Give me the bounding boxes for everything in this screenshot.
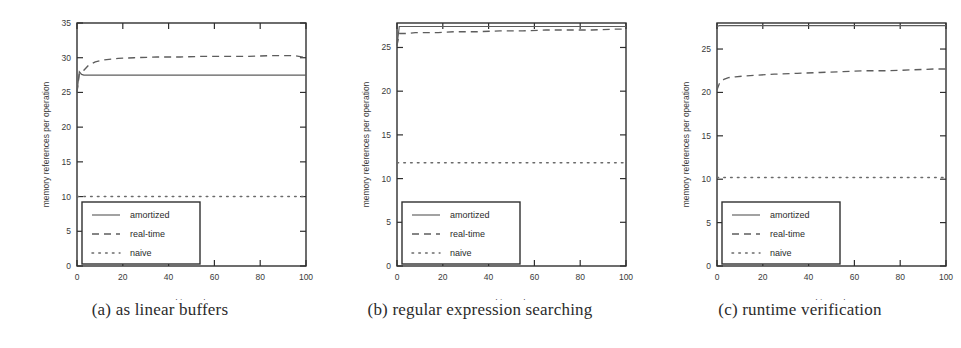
plot-area-a: 02040608010005101520253035memory referen… — [0, 0, 320, 300]
x-tick-label: 0 — [75, 272, 80, 282]
x-tick-label: 100 — [299, 272, 313, 282]
chart-b-content: 0204060801000510152025memory references … — [361, 23, 633, 300]
legend-item-amortized: amortized — [130, 210, 170, 220]
legend-item-real-time: real-time — [130, 229, 165, 239]
x-tick-label: 60 — [850, 272, 860, 282]
x-tick-label: 20 — [438, 272, 448, 282]
y-tick-label: 20 — [382, 86, 392, 96]
y-tick-label: 5 — [706, 218, 711, 228]
chart-c-content: 0204060801000510152025memory references … — [681, 23, 953, 300]
plot-area-c: 0204060801000510152025memory references … — [640, 0, 960, 300]
caption-a: (a) as linear buffers — [0, 300, 320, 320]
y-tick-label: 5 — [66, 226, 71, 236]
y-tick-label: 25 — [382, 42, 392, 52]
figure-row: 02040608010005101520253035memory referen… — [0, 0, 961, 348]
x-tick-label: 40 — [164, 272, 174, 282]
y-tick-label: 0 — [386, 261, 391, 271]
legend-item-naive: naive — [770, 248, 792, 258]
legend-item-real-time: real-time — [450, 229, 485, 239]
y-axis-title: memory references per operation — [361, 81, 371, 207]
x-tick-label: 60 — [210, 272, 220, 282]
x-tick-label: 20 — [758, 272, 768, 282]
y-tick-label: 20 — [62, 122, 72, 132]
x-tick-label: 0 — [395, 272, 400, 282]
y-tick-label: 20 — [702, 87, 712, 97]
x-tick-label: 100 — [939, 272, 953, 282]
y-tick-label: 25 — [62, 87, 72, 97]
x-tick-label: 80 — [255, 272, 265, 282]
chart-panel-b: 0204060801000510152025memory references … — [320, 0, 640, 348]
plot-area-b: 0204060801000510152025memory references … — [320, 0, 640, 300]
caption-b: (b) regular expression searching — [320, 300, 640, 320]
series-line-amortized — [717, 26, 946, 27]
y-axis-title: memory references per operation — [681, 81, 691, 207]
chart-panel-a: 02040608010005101520253035memory referen… — [0, 0, 320, 348]
legend-item-real-time: real-time — [770, 229, 805, 239]
caption-c: (c) runtime verification — [640, 300, 960, 320]
series-line-real-time — [717, 69, 946, 90]
x-tick-label: 40 — [484, 272, 494, 282]
series-line-real-time — [397, 29, 626, 46]
chart-svg-b: 0204060801000510152025memory references … — [320, 0, 640, 300]
y-tick-label: 10 — [702, 174, 712, 184]
legend-item-naive: naive — [450, 248, 472, 258]
y-axis-title: memory references per operation — [41, 81, 51, 207]
y-tick-label: 30 — [62, 53, 72, 63]
y-tick-label: 10 — [62, 192, 72, 202]
series-line-amortized — [77, 72, 306, 93]
x-tick-label: 60 — [530, 272, 540, 282]
y-tick-label: 15 — [382, 130, 392, 140]
x-tick-label: 100 — [619, 272, 633, 282]
y-tick-label: 15 — [62, 157, 72, 167]
x-tick-label: 0 — [715, 272, 720, 282]
legend-item-amortized: amortized — [770, 210, 810, 220]
series-line-real-time — [77, 56, 306, 93]
y-tick-label: 35 — [62, 18, 72, 28]
chart-svg-a: 02040608010005101520253035memory referen… — [0, 0, 320, 300]
legend-item-amortized: amortized — [450, 210, 490, 220]
y-tick-label: 25 — [702, 44, 712, 54]
legend-item-naive: naive — [130, 248, 152, 258]
y-tick-label: 15 — [702, 131, 712, 141]
x-tick-label: 80 — [895, 272, 905, 282]
x-tick-label: 80 — [575, 272, 585, 282]
chart-a-content: 02040608010005101520253035memory referen… — [41, 18, 313, 300]
x-tick-label: 40 — [804, 272, 814, 282]
chart-svg-c: 0204060801000510152025memory references … — [640, 0, 960, 300]
y-tick-label: 0 — [66, 261, 71, 271]
y-tick-label: 10 — [382, 174, 392, 184]
y-tick-label: 5 — [386, 217, 391, 227]
y-tick-label: 0 — [706, 261, 711, 271]
x-tick-label: 20 — [118, 272, 128, 282]
chart-panel-c: 0204060801000510152025memory references … — [640, 0, 960, 348]
